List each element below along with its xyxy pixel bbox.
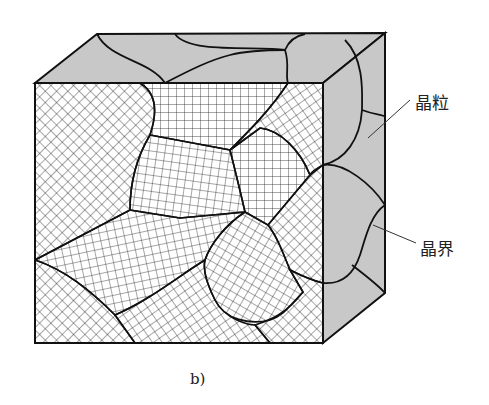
grain-label: 晶粒 bbox=[415, 89, 449, 114]
figure-caption: b) bbox=[190, 370, 205, 388]
grain-boundary-label: 晶界 bbox=[420, 235, 454, 260]
front-face bbox=[35, 83, 323, 343]
right-face bbox=[323, 33, 385, 343]
polycrystal-cube-diagram bbox=[0, 0, 489, 405]
